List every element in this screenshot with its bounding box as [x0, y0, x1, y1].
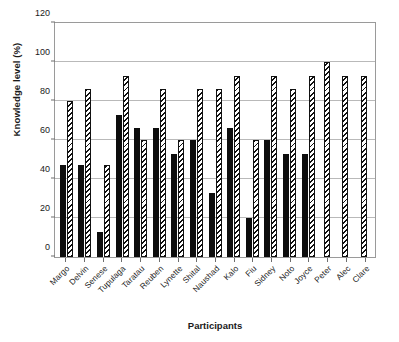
bar-hatched [160, 89, 166, 257]
bar-group [57, 23, 76, 257]
bar-solid [246, 218, 252, 257]
bar-hatched [271, 76, 277, 257]
bar-hatched [104, 165, 110, 257]
x-axis-label-cell: Naushad [206, 262, 225, 314]
bar-solid [153, 128, 159, 257]
bar-solid [97, 232, 103, 257]
bar-solid [78, 165, 84, 257]
y-axis-tick-label: 40 [40, 164, 55, 174]
x-axis-label-cell: Clare [355, 262, 374, 314]
bar-group [150, 23, 169, 257]
bar-group [299, 23, 318, 257]
y-axis-tick-label: 0 [45, 242, 55, 252]
bar-solid [209, 193, 215, 257]
bar-group [280, 23, 299, 257]
x-axis-label-cell: Joyce [299, 262, 318, 314]
bar-group [243, 23, 262, 257]
bar-hatched [234, 76, 240, 257]
x-axis-category-label: Kalo [222, 264, 240, 282]
bar-group [224, 23, 243, 257]
bar-hatched [85, 89, 91, 257]
bar-series-container [55, 23, 375, 257]
bar-hatched [309, 76, 315, 257]
bar-group [187, 23, 206, 257]
bar-solid [227, 128, 233, 257]
y-axis-tick-label: 20 [40, 203, 55, 213]
bar-group [76, 23, 95, 257]
bar-solid [116, 115, 122, 257]
bar-hatched [141, 140, 147, 257]
bar-group [94, 23, 113, 257]
bar-hatched [216, 89, 222, 257]
x-axis-label-cell: Lynette [168, 262, 187, 314]
x-axis-label-cell: Margo [56, 262, 75, 314]
bar-group [336, 23, 355, 257]
bar-group [206, 23, 225, 257]
bar-group [317, 23, 336, 257]
x-axis-category-label: Fiu [244, 264, 259, 279]
x-axis-label-cell: Sidney [262, 262, 281, 314]
bar-chart: Knowledge level (%) 020406080100120 Marg… [0, 0, 399, 342]
bar-hatched [290, 89, 296, 257]
bar-hatched [197, 89, 203, 257]
bar-group [131, 23, 150, 257]
bar-solid [283, 154, 289, 257]
bar-solid [302, 154, 308, 257]
x-axis-label-cell: Kalo [224, 262, 243, 314]
x-axis-category-label: Margo [49, 264, 72, 287]
y-axis-tick-label: 80 [40, 86, 55, 96]
bar-solid [171, 154, 177, 257]
y-axis-tick-label: 120 [35, 8, 55, 18]
bar-hatched [178, 140, 184, 257]
bar-solid [60, 165, 66, 257]
x-axis-labels: MargoDelvinSeneseTupulagaTaratauReubenLy… [54, 262, 376, 314]
y-axis-tick-label: 100 [35, 47, 55, 57]
bar-hatched [324, 62, 330, 257]
plot-area: 020406080100120 [54, 22, 376, 258]
bar-group [262, 23, 281, 257]
bar-hatched [342, 76, 348, 257]
x-axis-title: Participants [54, 320, 376, 331]
bar-group [113, 23, 132, 257]
x-axis-label-cell: Noto [280, 262, 299, 314]
y-axis-tick-label: 60 [40, 125, 55, 135]
bar-solid [190, 140, 196, 257]
bar-solid [264, 140, 270, 257]
x-axis-label-cell: Alec [337, 262, 356, 314]
bar-hatched [253, 140, 259, 257]
x-axis-label-cell: Peter [318, 262, 337, 314]
bar-hatched [67, 101, 73, 257]
bar-group [169, 23, 188, 257]
bar-hatched [123, 76, 129, 257]
x-axis-category-label: Alec [334, 264, 352, 282]
bar-hatched [361, 76, 367, 257]
y-axis-title: Knowledge level (%) [11, 30, 22, 150]
bar-solid [134, 128, 140, 257]
bar-group [355, 23, 374, 257]
